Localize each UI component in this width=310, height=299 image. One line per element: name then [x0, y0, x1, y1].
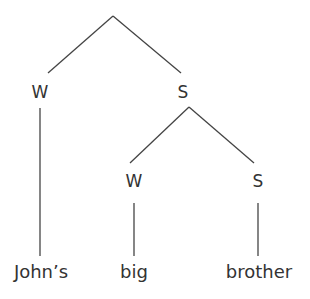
- edge-root-w: [48, 16, 113, 73]
- tree-edges: [0, 0, 310, 299]
- word-johns: John’s: [14, 263, 68, 281]
- node-s2: S: [253, 173, 264, 190]
- word-big: big: [120, 263, 148, 281]
- metrical-tree-diagram: W S W S John’s big brother: [0, 0, 310, 299]
- node-w1: W: [32, 84, 49, 101]
- node-s1: S: [178, 84, 189, 101]
- edge-root-s: [113, 16, 181, 73]
- word-brother: brother: [226, 263, 292, 281]
- edge-s-w: [130, 107, 189, 163]
- edge-s-s: [189, 107, 254, 163]
- node-w2: W: [126, 173, 143, 190]
